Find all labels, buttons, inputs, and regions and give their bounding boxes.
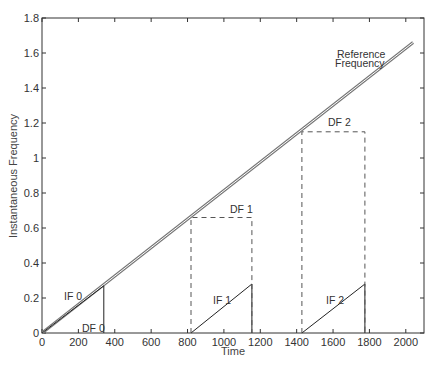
chart-figure: 0200400600800100012001400160018002000 00… (0, 0, 436, 367)
x-tick-label: 200 (69, 336, 87, 348)
if0-label: IF 0 (64, 290, 82, 302)
x-tick-label: 1800 (357, 336, 381, 348)
y-tick-label: 1.2 (24, 117, 39, 129)
df1-label: DF 1 (230, 203, 253, 215)
y-tick-label: 1.8 (24, 12, 39, 24)
df2-label: DF 2 (328, 116, 351, 128)
if2-label: IF 2 (326, 294, 344, 306)
x-tick-label: 2000 (394, 336, 418, 348)
reference-label-line2: Frequency (335, 57, 385, 69)
y-tick-label: 0.8 (24, 187, 39, 199)
if-1-line (191, 284, 252, 333)
y-tick-label: 0.6 (24, 222, 39, 234)
x-tick-label: 1200 (248, 336, 272, 348)
x-tick-label: 0 (39, 336, 45, 348)
y-axis-label: Instantaneous Frequency (7, 113, 19, 238)
x-tick-label: 600 (142, 336, 160, 348)
x-axis-label: Time (221, 345, 245, 357)
y-tick-label: 0.4 (24, 257, 39, 269)
x-tick-label: 400 (106, 336, 124, 348)
y-tick-label: 1 (33, 152, 39, 164)
if1-label: IF 1 (213, 294, 231, 306)
figure-caption-cropped (40, 358, 436, 367)
y-tick-label: 0 (33, 327, 39, 339)
x-tick-label: 1600 (321, 336, 345, 348)
if-2-line (302, 284, 365, 333)
x-tick-label: 1400 (284, 336, 308, 348)
y-tick-label: 0.2 (24, 292, 39, 304)
df-1-line (191, 218, 252, 334)
df0-label: DF 0 (82, 322, 105, 334)
y-tick-label: 1.6 (24, 47, 39, 59)
y-tick-label: 1.4 (24, 82, 39, 94)
x-tick-label: 800 (178, 336, 196, 348)
series-layer (42, 43, 413, 334)
